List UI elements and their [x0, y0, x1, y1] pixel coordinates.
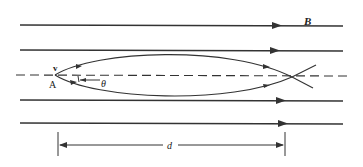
arrow-icon [272, 22, 282, 29]
arrow-icon [59, 142, 67, 148]
field-line-1 [20, 25, 343, 26]
field-lines [20, 22, 343, 127]
velocity-label: v [53, 63, 58, 73]
field-line-2 [20, 50, 343, 51]
distance-label: d [167, 140, 173, 151]
arrow-icon [276, 142, 284, 148]
field-line-4 [20, 123, 343, 124]
arrow-icon [80, 78, 86, 82]
lower-trajectory [55, 75, 292, 96]
crossing-line-down [292, 77, 313, 88]
point-label: A [49, 79, 57, 90]
arrow-icon [278, 120, 288, 127]
field-line-3 [20, 100, 343, 101]
crossing-line-up [292, 65, 316, 77]
arrow-icon [276, 97, 286, 104]
field-label: B [303, 15, 311, 27]
arrow-icon [270, 47, 280, 54]
axis-dashed-line [16, 75, 348, 76]
upper-trajectory [55, 55, 292, 77]
magnetic-focusing-diagram: B v A θ d [0, 0, 363, 167]
angle-tick [78, 76, 79, 82]
angle-label: θ [101, 78, 106, 89]
